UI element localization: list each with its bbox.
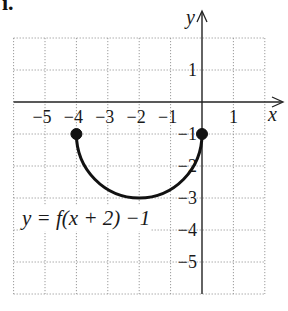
endpoint-dot [71,129,82,140]
x-axis-label: x [267,103,277,125]
y-tick-label: −1 [178,124,197,144]
endpoint-dot [197,129,208,140]
y-tick-label: −4 [178,220,197,240]
y-axis-label: y [184,6,195,29]
x-tick-label: −1 [158,107,177,127]
tick-labels: −5−4−3−2−111−1−2−3−4−5 [32,60,237,272]
y-tick-label: 1 [188,60,197,80]
x-tick-label: 1 [229,107,238,127]
x-tick-label: −3 [95,107,114,127]
function-graph: xy −5−4−3−2−111−1−2−3−4−5 y = f(x + 2) −… [0,0,288,311]
function-equation-label: y = f(x + 2) −1 [20,206,150,230]
function-label: y = f(x + 2) −1 [20,205,150,231]
y-tick-label: −3 [178,188,197,208]
axes: xy [14,6,283,294]
y-tick-label: −5 [178,252,197,272]
x-tick-label: −5 [32,107,51,127]
grid [14,38,265,294]
x-tick-label: −4 [64,107,83,127]
x-tick-label: −2 [127,107,146,127]
